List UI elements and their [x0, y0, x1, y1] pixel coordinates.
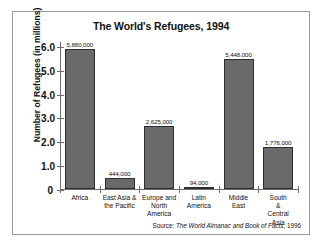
y-axis-tick: [57, 95, 64, 96]
y-axis-tick: [57, 118, 64, 119]
x-axis-tick: [298, 186, 299, 193]
y-axis-tick: [57, 166, 64, 167]
bar: [105, 178, 135, 189]
x-axis-tick: [60, 186, 61, 193]
y-axis-tick-label: 4.0: [41, 89, 55, 100]
x-axis-category-label: Middle East: [229, 194, 248, 210]
x-axis-tick: [139, 186, 140, 193]
bar: [144, 126, 174, 189]
chart-title: The World's Refugees, 1994: [13, 20, 309, 32]
bar-value-label: 5,448,000: [225, 51, 252, 58]
x-axis-tick: [219, 186, 220, 193]
x-axis-category-label: Africa: [71, 194, 88, 202]
y-axis-tick-label: 0: [47, 185, 53, 196]
x-axis-tick: [100, 186, 101, 193]
bar: [224, 59, 254, 189]
y-axis-tick: [57, 71, 64, 72]
source-publication: The World Almanac and Book of Facts: [176, 222, 284, 229]
bar-value-label: 2,625,000: [146, 118, 173, 125]
y-axis-tick: [57, 142, 64, 143]
source-note: Source: The World Almanac and Book of Fa…: [152, 222, 301, 229]
x-axis-tick: [258, 186, 259, 193]
bar-value-label: 444,000: [109, 170, 131, 177]
chart-figure: The World's Refugees, 1994 Number of Ref…: [12, 11, 310, 235]
x-axis-category-label: East Asia & the Pacific: [103, 194, 137, 210]
y-axis-tick-label: 1.0: [41, 161, 55, 172]
y-axis-tick-label: 5.0: [41, 65, 55, 76]
bar: [184, 187, 214, 189]
y-axis-tick-label: 2.0: [41, 137, 55, 148]
source-suffix: , 1996: [283, 222, 301, 229]
x-axis-category-label: Europe and North America: [142, 194, 176, 219]
bar-value-label: 94,000: [190, 179, 208, 186]
y-axis-line: [60, 42, 61, 190]
y-axis-tick-label: 3.0: [41, 113, 55, 124]
source-prefix: Source:: [152, 222, 175, 229]
bar-value-label: 1,776,000: [265, 139, 292, 146]
x-axis-tick: [179, 186, 180, 193]
bar: [65, 49, 95, 189]
bar: [263, 147, 293, 189]
plot-area: 01.02.03.04.05.06.0 5,880,000444,0002,62…: [60, 42, 298, 190]
y-axis-tick-label: 6.0: [41, 41, 55, 52]
x-axis-category-label: Latin America: [187, 194, 211, 210]
bar-value-label: 5,880,000: [67, 41, 94, 48]
y-axis-tick: [57, 47, 64, 48]
